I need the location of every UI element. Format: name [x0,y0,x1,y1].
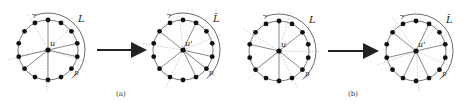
node [277,19,282,24]
node [168,75,173,80]
node [290,76,295,81]
center-label: u' [418,40,425,49]
node [401,76,406,81]
arc-end-label: p [442,70,447,78]
node [204,29,209,34]
node [16,54,21,59]
node [194,75,199,80]
node [151,54,156,59]
node [210,54,215,59]
wheel-panel-a-before: Lpu [7,13,88,92]
node [181,18,186,23]
node [384,55,389,60]
node [290,22,295,27]
node [69,29,74,34]
arc-end-label: p [305,70,310,78]
node [247,42,252,47]
node [46,78,51,83]
node [59,21,64,26]
node [253,30,258,35]
caption-a: (a) [116,90,126,98]
node [384,42,389,47]
node [75,41,80,46]
node [401,22,406,27]
figure-canvas: LpuL̂pu'LpuL̂pu' (a) (b) [0,0,470,106]
wheel-panel-a-after: L̂pu' [142,8,222,88]
node [390,67,395,72]
node [59,75,64,80]
center-node [180,47,185,52]
node [443,42,448,47]
node [157,29,162,34]
node [194,21,199,26]
node [264,76,269,81]
node [22,66,27,71]
node [300,30,305,35]
node [427,22,432,27]
node [168,21,173,26]
node [306,42,311,47]
node [443,55,448,60]
node [247,55,252,60]
center-node [413,48,418,53]
node [414,19,419,24]
center-label: u [50,39,55,48]
node [151,41,156,46]
arc-end-label: p [209,69,214,77]
node [33,21,38,26]
wheel-panel-b-before: Lpu [243,11,321,89]
arc-label: L̂ [445,14,453,25]
node [390,30,395,35]
center-node [276,48,281,53]
wheel-panel-b-after: L̂pu' [376,14,454,93]
node [306,55,311,60]
node [253,67,258,72]
node [157,66,162,71]
center-label: u' [185,39,192,48]
center-node [45,47,50,52]
caption-b: (b) [348,90,358,98]
center-label: u [281,40,286,49]
node [264,22,269,27]
node [22,29,27,34]
node [181,78,186,83]
node [16,41,21,46]
node [414,79,419,84]
arc-label: L [308,14,316,25]
node [427,76,432,81]
node [75,54,80,59]
arc-end-label: p [74,69,79,77]
node [277,79,282,84]
node [33,75,38,80]
arc-label: L [77,13,85,24]
node [437,30,442,35]
arc-label: L̂ [212,13,220,24]
node [46,18,51,23]
node [210,41,215,46]
